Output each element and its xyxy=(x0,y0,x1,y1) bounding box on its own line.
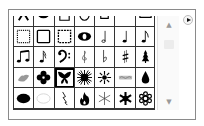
cloud-outline-icon xyxy=(36,91,51,106)
flat-sign-icon xyxy=(97,49,112,64)
shape-grid-viewport xyxy=(13,16,155,110)
square-frame-icon xyxy=(57,16,72,23)
eye-ring-icon xyxy=(77,29,92,44)
shape-cell[interactable] xyxy=(34,68,54,89)
shape-cell[interactable] xyxy=(75,68,95,89)
sun-icon xyxy=(97,70,112,85)
shape-cell[interactable] xyxy=(14,27,34,48)
quarter-note-icon xyxy=(118,29,133,44)
flyout-menu-button[interactable] xyxy=(183,15,193,25)
shape-cell[interactable] xyxy=(136,68,155,89)
cloud-filled-icon xyxy=(16,91,31,106)
snowflake-thin-icon xyxy=(97,91,112,106)
shape-cell[interactable] xyxy=(95,16,115,27)
shape-cell[interactable] xyxy=(14,16,34,27)
eighth-note-icon xyxy=(138,29,153,44)
rough-frame-icon xyxy=(36,29,51,44)
play-arrow-icon xyxy=(187,18,191,22)
vertical-scrollbar[interactable]: ▲ ▼ xyxy=(157,16,179,110)
shape-cell[interactable] xyxy=(95,27,115,48)
shape-cell[interactable] xyxy=(14,88,34,109)
shape-cell[interactable] xyxy=(115,88,135,109)
shape-cell[interactable] xyxy=(115,16,135,27)
shape-cell[interactable] xyxy=(55,47,75,68)
half-circle-icon xyxy=(36,16,51,23)
bass-clef-icon xyxy=(57,49,72,64)
shape-cell[interactable] xyxy=(95,68,115,89)
sunburst-icon xyxy=(77,70,92,85)
shape-cell[interactable] xyxy=(14,47,34,68)
shape-cell[interactable] xyxy=(75,88,95,109)
stamp-frame-icon xyxy=(16,29,31,44)
shape-cell[interactable] xyxy=(136,16,155,27)
tree-icon xyxy=(138,49,153,64)
grass-icon xyxy=(16,70,31,85)
scroll-thumb[interactable] xyxy=(164,40,174,49)
shape-cell[interactable] xyxy=(95,88,115,109)
shape-cell[interactable] xyxy=(34,47,54,68)
shape-cell[interactable] xyxy=(136,88,155,109)
sixteenth-note-icon xyxy=(36,49,51,64)
butterfly-icon xyxy=(57,70,72,85)
snowflake-bold-icon xyxy=(118,91,133,106)
shape-cell-selected[interactable] xyxy=(55,68,75,89)
shape-cell[interactable] xyxy=(95,47,115,68)
chevron-up-icon xyxy=(16,16,31,23)
shape-cell[interactable] xyxy=(136,27,155,48)
scroll-down-arrow-icon[interactable]: ▼ xyxy=(163,98,175,107)
shape-cell[interactable] xyxy=(75,47,95,68)
half-note-icon xyxy=(97,29,112,44)
shape-cell[interactable] xyxy=(34,16,54,27)
fire-icon xyxy=(77,91,92,106)
beamed-notes-icon xyxy=(16,49,31,64)
shape-cell[interactable] xyxy=(136,47,155,68)
shape-cell[interactable] xyxy=(55,16,75,27)
shape-grid xyxy=(14,16,155,109)
shape-cell[interactable] xyxy=(34,27,54,48)
shape-cell[interactable] xyxy=(55,88,75,109)
sharp-sign-icon xyxy=(118,49,133,64)
shape-cell[interactable] xyxy=(115,68,135,89)
scroll-up-arrow-icon[interactable]: ▲ xyxy=(163,21,175,30)
arc-frame-icon xyxy=(118,16,133,23)
shape-cell[interactable] xyxy=(75,16,95,27)
flower-icon xyxy=(36,70,51,85)
shape-cell[interactable] xyxy=(75,27,95,48)
shape-cell[interactable] xyxy=(14,68,34,89)
banner-frame-icon xyxy=(138,16,153,23)
lightning-icon xyxy=(57,91,72,106)
u-frame-icon xyxy=(77,16,92,23)
shape-cell[interactable] xyxy=(115,27,135,48)
raindrop-icon xyxy=(138,70,153,85)
box-frame-icon xyxy=(97,16,112,23)
shape-cell[interactable] xyxy=(115,47,135,68)
ornament-icon xyxy=(118,70,133,85)
snowflake-ornate-icon xyxy=(138,91,153,106)
treble-clef-icon xyxy=(77,49,92,64)
shape-cell[interactable] xyxy=(34,88,54,109)
shape-cell[interactable] xyxy=(55,27,75,48)
dotted-frame-icon xyxy=(57,29,72,44)
